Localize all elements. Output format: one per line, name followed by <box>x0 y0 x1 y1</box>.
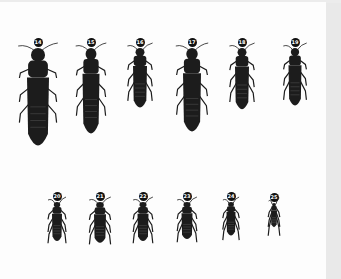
figure-plate: 141516171819202122232425 <box>0 2 326 279</box>
beetle-specimen <box>0 0 341 279</box>
